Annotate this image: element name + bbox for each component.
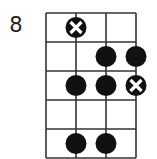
root-x-marker-icon	[66, 17, 87, 38]
finger-dot	[96, 75, 117, 96]
finger-dot	[66, 75, 87, 96]
fretboard-diagram	[0, 0, 157, 159]
root-x-marker-icon	[126, 75, 147, 96]
fretboard-grid	[46, 13, 136, 158]
finger-dot	[66, 133, 87, 154]
finger-dot	[96, 133, 117, 154]
finger-dot	[126, 46, 147, 67]
finger-dot	[96, 46, 117, 67]
